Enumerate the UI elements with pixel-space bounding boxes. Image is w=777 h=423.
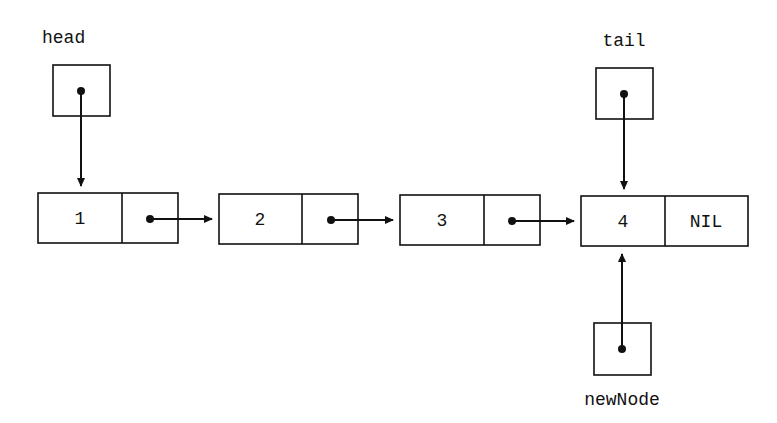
node-2-value: 2	[255, 210, 266, 230]
node-3-value: 3	[437, 211, 448, 231]
newnode-pointer: newNode	[584, 254, 660, 410]
node-4-value: 4	[618, 212, 629, 232]
node-2: 2	[219, 194, 393, 244]
node-4: 4 NIL	[581, 196, 748, 246]
node-1-value: 1	[75, 209, 86, 229]
node-1: 1	[38, 193, 212, 243]
node-4-nil: NIL	[690, 212, 722, 232]
newnode-label: newNode	[584, 390, 660, 410]
tail-label: tail	[602, 31, 645, 51]
head-label: head	[42, 28, 85, 48]
node-3: 3	[400, 195, 574, 245]
tail-pointer: tail	[596, 31, 653, 189]
head-pointer: head	[42, 28, 110, 186]
linked-list-diagram: head 1 2 3 4 NIL tail	[0, 0, 777, 423]
